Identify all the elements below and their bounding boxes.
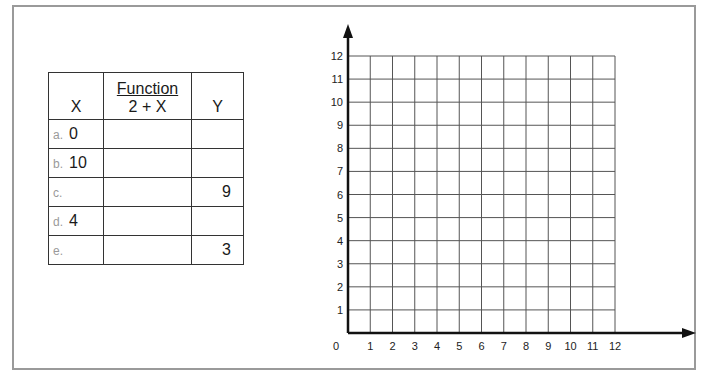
y-tick-label: 3	[337, 258, 343, 270]
y-tick-label: 4	[337, 235, 343, 247]
x-tick-label: 6	[478, 340, 484, 352]
x-tick-label: 2	[389, 340, 395, 352]
x-tick-label: 9	[545, 340, 551, 352]
x-tick-label: 8	[523, 340, 529, 352]
y-tick-label: 5	[337, 212, 343, 224]
y-tick-label: 8	[337, 142, 343, 154]
x-tick-label: 11	[587, 340, 598, 352]
tick-labels: 0123456789101112123456789101112	[331, 50, 621, 352]
grid-lines	[348, 56, 615, 333]
y-tick-label: 1	[337, 304, 343, 316]
x-axis-arrow-icon	[682, 328, 696, 338]
x-tick-label: 7	[501, 340, 507, 352]
axes	[343, 24, 696, 338]
x-tick-label: 12	[609, 340, 621, 352]
coordinate-grid[interactable]: 0123456789101112123456789101112	[0, 0, 714, 384]
x-tick-label: 1	[367, 340, 373, 352]
x-tick-label: 4	[434, 340, 440, 352]
y-tick-label: 12	[331, 50, 343, 62]
x-tick-label: 3	[412, 340, 418, 352]
origin-label: 0	[333, 340, 339, 352]
y-tick-label: 2	[337, 281, 343, 293]
x-tick-label: 10	[564, 340, 576, 352]
y-axis-arrow-icon	[343, 24, 353, 38]
y-tick-label: 11	[332, 73, 343, 85]
x-tick-label: 5	[456, 340, 462, 352]
y-tick-label: 9	[337, 119, 343, 131]
y-tick-label: 10	[331, 96, 343, 108]
y-tick-label: 6	[337, 189, 343, 201]
y-tick-label: 7	[337, 165, 343, 177]
